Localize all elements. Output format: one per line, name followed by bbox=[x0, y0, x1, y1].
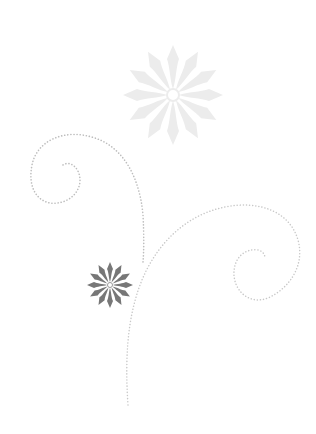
ornament-artwork bbox=[0, 0, 316, 434]
small-flower-icon bbox=[87, 262, 133, 308]
large-flower-icon bbox=[123, 45, 223, 145]
decorative-canvas bbox=[0, 0, 316, 434]
left-swirl bbox=[31, 134, 144, 262]
right-swirl bbox=[127, 205, 300, 405]
